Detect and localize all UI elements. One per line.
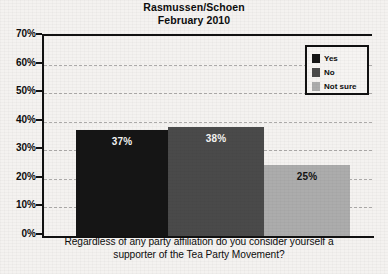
- legend: Yes No Not sure: [305, 45, 369, 95]
- legend-label-no: No: [324, 68, 335, 77]
- chart-title: Rasmussen/Schoen February 2010: [0, 1, 388, 26]
- y-axis-tick-label: 70%: [0, 29, 36, 39]
- legend-label-not-sure: Not sure: [324, 82, 356, 91]
- x-axis-caption-line-2: supporter of the Tea Party Movement?: [24, 249, 374, 262]
- legend-swatch-no: [312, 68, 320, 77]
- legend-item-yes: Yes: [312, 51, 367, 65]
- legend-label-yes: Yes: [324, 54, 338, 63]
- x-axis-caption-line-1: Regardless of any party affiliation do y…: [24, 236, 374, 249]
- y-axis-tick-label: 60%: [0, 58, 36, 68]
- bar-yes: 37%: [76, 130, 168, 236]
- legend-item-no: No: [312, 65, 367, 79]
- x-axis-caption: Regardless of any party affiliation do y…: [24, 236, 374, 261]
- legend-swatch-yes: [312, 54, 320, 63]
- chart-title-line-1: Rasmussen/Schoen: [0, 1, 388, 14]
- legend-item-not-sure: Not sure: [312, 79, 367, 93]
- bar-value-label-not-sure: 25%: [264, 171, 350, 182]
- bar-value-label-yes: 37%: [76, 136, 168, 147]
- bar-no: 38%: [168, 127, 264, 236]
- y-axis-tick-label: 50%: [0, 86, 36, 96]
- y-axis-tick-label: 40%: [0, 115, 36, 125]
- y-axis-tick-label: 30%: [0, 143, 36, 153]
- legend-swatch-not-sure: [312, 82, 320, 91]
- chart-title-line-2: February 2010: [0, 14, 388, 27]
- bar-not-sure: 25%: [264, 165, 350, 236]
- bar-value-label-no: 38%: [168, 133, 264, 144]
- bar-chart: Rasmussen/Schoen February 2010 0%10%20%3…: [0, 0, 388, 274]
- y-axis-tick-label: 20%: [0, 172, 36, 182]
- y-axis-tick-label: 10%: [0, 200, 36, 210]
